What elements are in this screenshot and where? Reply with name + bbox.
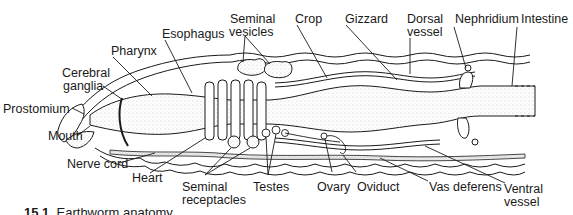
hearts <box>205 80 266 140</box>
label-seminal-vesicles-line2: vesicles <box>229 26 273 39</box>
label-gizzard: Gizzard <box>345 13 388 26</box>
ventral-vessel <box>275 138 440 150</box>
label-prostomium: Prostomium <box>3 103 70 116</box>
label-nephridium: Nephridium <box>455 13 519 26</box>
dorsal-vessel <box>275 72 475 87</box>
label-dorsal-vessel-line2: vessel <box>407 26 442 39</box>
label-cerebral-ganglia-line2: ganglia <box>63 80 103 93</box>
label-vas-deferens: Vas deferens <box>429 181 502 194</box>
vas-deferens <box>285 133 340 142</box>
figure-caption-text: Earthworm anatomy <box>57 205 173 215</box>
seminal-vesicles <box>238 59 292 78</box>
seminal-receptacles <box>228 136 259 148</box>
figure-caption: 15.1 Earthworm anatomy <box>24 205 173 215</box>
label-pharynx: Pharynx <box>111 45 157 58</box>
figure-number: 15.1 <box>24 205 49 215</box>
label-ventral-vessel-line2: vessel <box>504 196 539 209</box>
label-ovary: Ovary <box>317 181 350 194</box>
label-nerve-cord: Nerve cord <box>67 158 128 171</box>
label-mouth: Mouth <box>48 130 83 143</box>
earthworm-anatomy-figure: Prostomium Mouth Cerebral ganglia Pharyn… <box>0 0 573 215</box>
label-seminal-receptacles-line2: receptacles <box>182 194 246 207</box>
label-esophagus: Esophagus <box>162 28 225 41</box>
label-oviduct: Oviduct <box>357 181 399 194</box>
label-crop: Crop <box>295 13 322 26</box>
label-testes: Testes <box>253 181 289 194</box>
label-intestine: Intestine <box>521 13 568 26</box>
label-heart: Heart <box>132 172 163 185</box>
